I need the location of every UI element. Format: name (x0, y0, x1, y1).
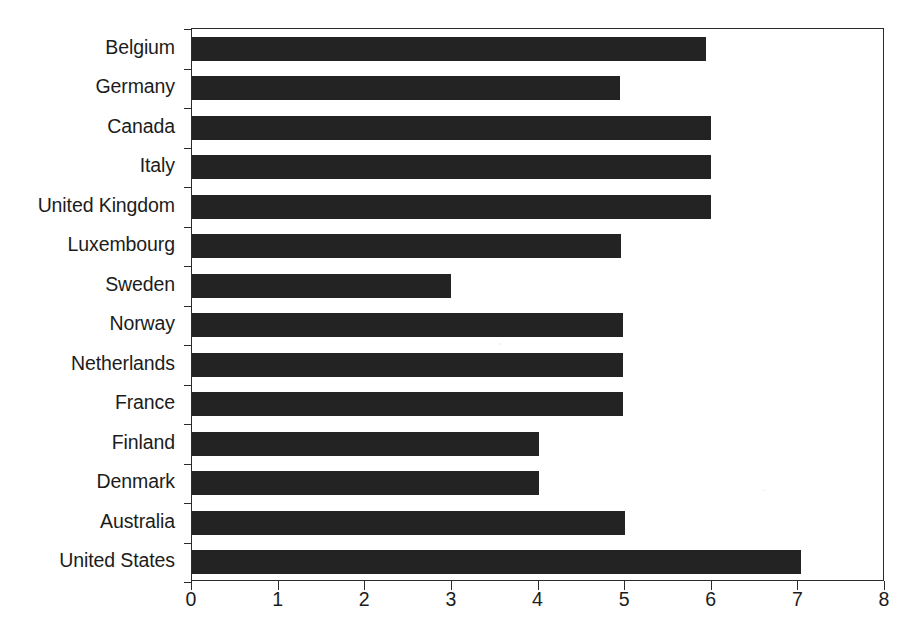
y-axis-tick (184, 345, 192, 346)
category-label: Netherlands (71, 354, 175, 374)
bar (192, 234, 621, 258)
x-axis-tick-label: 3 (431, 590, 471, 610)
bar (192, 76, 620, 100)
bar-chart: BelgiumGermanyCanadaItalyUnited KingdomL… (0, 0, 909, 637)
bar (192, 471, 539, 495)
plot-area (191, 28, 884, 581)
y-axis-tick (184, 306, 192, 307)
bar (192, 511, 625, 535)
category-label: Luxembourg (68, 235, 175, 255)
x-axis-tick-label: 8 (864, 590, 904, 610)
bar (192, 313, 623, 337)
y-axis-tick (184, 424, 192, 425)
y-axis-tick (184, 29, 192, 30)
bar (192, 274, 451, 298)
y-axis-tick (184, 503, 192, 504)
x-axis-tick-label: 5 (604, 590, 644, 610)
x-axis-tick-label: 4 (518, 590, 558, 610)
y-axis-tick (184, 464, 192, 465)
bar (192, 116, 711, 140)
y-axis-tick (184, 385, 192, 386)
y-axis-tick (184, 227, 192, 228)
bars-layer (192, 29, 883, 580)
y-axis-tick (184, 148, 192, 149)
category-label: France (115, 393, 175, 413)
bar (192, 392, 623, 416)
category-label: Denmark (97, 472, 175, 492)
x-axis-tick-label: 2 (344, 590, 384, 610)
category-axis-labels: BelgiumGermanyCanadaItalyUnited KingdomL… (0, 28, 183, 581)
bar (192, 550, 801, 574)
category-label: Belgium (105, 38, 175, 58)
bar (192, 195, 711, 219)
bar (192, 155, 711, 179)
bar (192, 432, 539, 456)
category-label: Finland (112, 433, 175, 453)
category-label: Italy (140, 156, 175, 176)
category-label: Norway (110, 314, 176, 334)
x-axis-tick-label: 1 (258, 590, 298, 610)
bar (192, 37, 706, 61)
y-axis-tick (184, 543, 192, 544)
y-axis-tick (184, 108, 192, 109)
x-axis-tick-label: 0 (171, 590, 211, 610)
category-label: Germany (96, 77, 176, 97)
y-axis-tick (184, 187, 192, 188)
category-label: Australia (100, 512, 175, 532)
category-label: Sweden (105, 275, 175, 295)
x-axis-tick-label: 6 (691, 590, 731, 610)
category-label: United Kingdom (38, 196, 175, 216)
category-label: United States (59, 551, 175, 571)
category-label: Canada (107, 117, 175, 137)
y-axis-tick (184, 69, 192, 70)
y-axis-tick (184, 266, 192, 267)
x-axis-tick-label: 7 (777, 590, 817, 610)
bar (192, 353, 623, 377)
